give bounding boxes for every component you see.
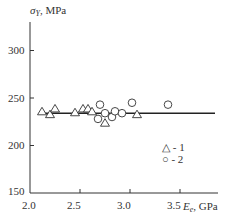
circle-marker — [96, 101, 104, 109]
legend-label-2: - 2 — [169, 153, 184, 165]
circle-marker — [164, 101, 172, 109]
x-tick-label-3-5: 3.5 — [167, 199, 181, 211]
legend-item-1: △ - 1 — [162, 141, 185, 153]
legend-label-1: - 1 — [170, 141, 185, 153]
circle-marker — [101, 109, 109, 117]
x-label-symbol: E — [183, 200, 190, 212]
y-tick-label-250: 250 — [8, 92, 25, 104]
x-ticks — [80, 189, 180, 193]
legend-item-2: ○ - 2 — [162, 153, 185, 165]
triangle-marker — [51, 104, 60, 112]
circle-marker — [128, 99, 136, 107]
circle-icon: ○ — [162, 153, 169, 165]
y-tick-label-200: 200 — [8, 139, 25, 151]
x-tick-label-2-0: 2.0 — [22, 199, 36, 211]
y-label-unit: , MPa — [40, 4, 66, 16]
y-tick-label-300: 300 — [8, 44, 25, 56]
y-ticks — [30, 51, 34, 146]
legend: △ - 1 ○ - 2 — [162, 141, 185, 165]
circle-marker — [118, 109, 126, 117]
triangle-marker — [38, 107, 47, 115]
x-label-unit: , GPa — [193, 200, 217, 212]
circle-marker — [111, 108, 119, 116]
x-tick-label-2-5: 2.5 — [67, 199, 81, 211]
scatter-plot — [0, 0, 232, 220]
y-axis-label: σY, MPa — [30, 4, 66, 18]
triangle-icon: △ — [162, 141, 170, 153]
circle-marker — [94, 115, 102, 123]
x-axis-label: Ee, GPa — [183, 200, 218, 214]
y-tick-label-150: 150 — [8, 185, 25, 197]
x-tick-label-3-0: 3.0 — [117, 199, 131, 211]
